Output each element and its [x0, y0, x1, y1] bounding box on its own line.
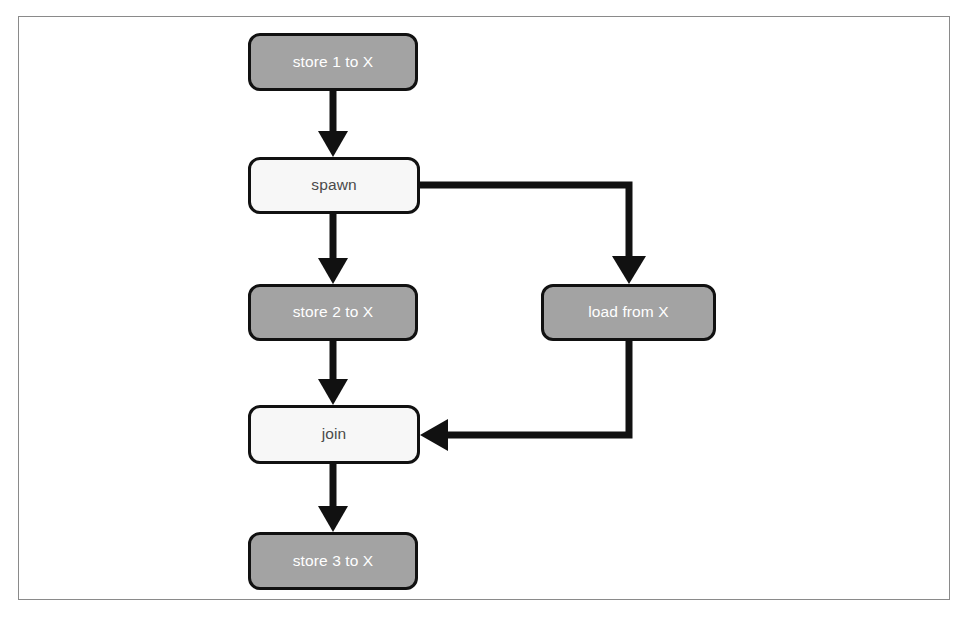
edge-load-to-join	[420, 341, 629, 451]
caption-strip	[0, 604, 963, 618]
edge-join-to-store3	[318, 464, 348, 532]
node-label: store 2 to X	[293, 304, 373, 321]
node-label: store 3 to X	[293, 553, 373, 570]
node-load-from-x[interactable]: load from X	[541, 284, 716, 341]
node-join[interactable]: join	[248, 405, 420, 464]
edge-spawn-to-load	[420, 185, 646, 284]
node-spawn[interactable]: spawn	[248, 157, 420, 214]
node-store-3-to-x[interactable]: store 3 to X	[248, 532, 418, 590]
diagram-arrows	[0, 0, 963, 618]
node-label: store 1 to X	[293, 54, 373, 71]
node-label: spawn	[311, 177, 356, 194]
node-label: load from X	[588, 304, 668, 321]
edge-store1-to-spawn	[318, 91, 348, 157]
edge-store2-to-join	[318, 341, 348, 405]
node-store-1-to-x[interactable]: store 1 to X	[248, 33, 418, 91]
figure-root: store 1 to X spawn store 2 to X load fro…	[0, 0, 963, 618]
edge-spawn-to-store2	[318, 214, 348, 284]
node-label: join	[322, 426, 347, 443]
node-store-2-to-x[interactable]: store 2 to X	[248, 284, 418, 341]
